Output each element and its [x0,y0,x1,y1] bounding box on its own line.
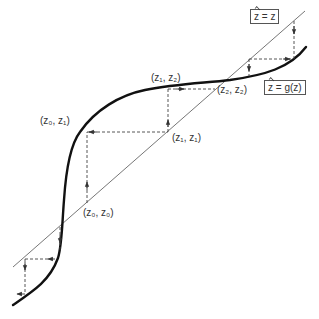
map-rhs: = g(z) [276,82,302,93]
identity-rhs: = z [262,11,276,22]
point-label-z0-z1: (z₀, z₁) [40,115,70,126]
map-curve [13,47,306,305]
identity-line-label: z = z [250,9,279,24]
point-label-z1-z1: (z₁, z₁) [172,132,201,143]
point-label-z0-z0: (z₀, z₀) [83,207,114,218]
z-hat: z [254,11,259,22]
point-label-z2-z2: (z₂, z₂) [217,84,247,95]
cobweb-diagram [0,0,319,319]
z-hat: z [268,82,273,93]
map-curve-label: z = g(z) [264,80,306,95]
cobweb-steps [25,21,294,294]
point-label-z1-z2: (z₁, z₂) [151,72,180,83]
identity-line [13,11,305,267]
